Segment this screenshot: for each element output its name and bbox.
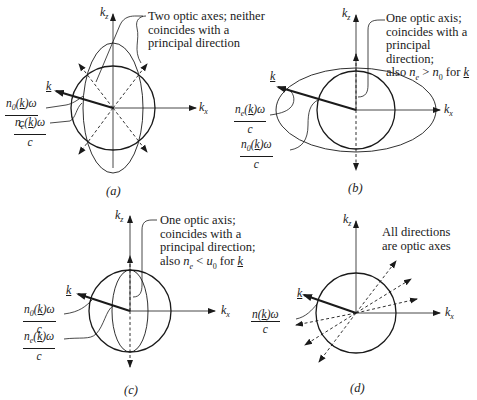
panel-c-k-label: k [66,283,71,298]
panel-d-annotation: All directions are optic axes [382,226,451,253]
panel-a-kz-label: kz [100,5,108,21]
panel-b-annotation: One optic axis; coincides with a princip… [386,12,477,84]
panel-c-annotation: One optic axis; coincides with a princip… [160,214,255,273]
panel-b-k-label: k [270,69,275,84]
optic-axis-3 [356,299,417,313]
panel-d-k-label: k [297,286,302,301]
optic-axis-4 [296,313,356,325]
panel-d-kz-label: kz [343,212,351,228]
annotation-leader [358,20,385,97]
panel-b-n0-fraction: n0(k)ωc [240,138,273,170]
k-vector [78,294,130,311]
panel-b-caption: (b) [348,181,363,196]
panel-b-kx-label: kx [444,102,453,118]
panel-a-annotation: Two optic axes; neither coincides with a… [148,10,265,51]
panel-b-kz-label: kz [342,6,350,22]
panel-d-caption: (d) [350,381,365,396]
n0-leader [64,300,92,314]
ne-leader [270,89,294,115]
panel-c-kz-label: kz [115,208,123,224]
optic-axis-5 [305,313,356,345]
n-leader [296,304,317,319]
optic-axis-1b [113,108,147,152]
panel-d-kx-label: kx [445,305,454,321]
panel-c-caption: (c) [124,383,138,398]
annotation-leader [133,220,157,297]
optic-axis-1 [79,64,113,108]
ne-leader [50,103,82,123]
panel-c-ne-fraction: ne(k)ωc [23,330,55,362]
panel-a-caption: (a) [106,184,121,199]
panel-c-kx-label: kx [221,303,230,319]
panel-a-kx-label: kx [199,100,208,116]
optic-axis-2 [113,64,147,108]
annotation-leader-2 [137,16,146,63]
n0-leader [290,100,318,150]
panel-d-n-fraction: n(k)ωc [251,308,280,335]
panel-b-ne-fraction: ne(k)ωc [234,103,266,135]
panel-a-ne-fraction: ne(k)ωc [14,116,46,148]
panel-a-k-label: k [46,79,51,94]
